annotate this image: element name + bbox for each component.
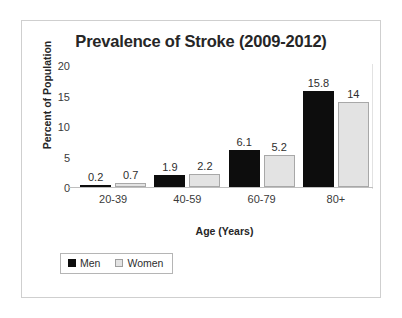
bar-value-label: 2.2 bbox=[197, 160, 212, 172]
y-axis-tick-label: 5 bbox=[64, 152, 70, 164]
legend-item-women[interactable]: Women bbox=[115, 257, 163, 269]
x-axis-tick-label: 20-39 bbox=[76, 193, 150, 205]
bar-slot: 0.2 bbox=[80, 66, 111, 187]
y-axis-tick-label: 0 bbox=[64, 182, 70, 194]
bar-group: 1.92.2 bbox=[150, 66, 224, 187]
bar-group: 15.814 bbox=[299, 66, 373, 187]
bar-value-label: 6.1 bbox=[236, 136, 251, 148]
legend-label: Men bbox=[80, 257, 100, 269]
x-axis-title: Age (Years) bbox=[76, 225, 373, 237]
bar-value-label: 5.2 bbox=[271, 141, 286, 153]
bar-men-20-39[interactable] bbox=[80, 185, 111, 187]
bar-slot: 14 bbox=[338, 66, 369, 187]
chart-legend: MenWomen bbox=[60, 253, 173, 274]
bar-value-label: 0.7 bbox=[123, 169, 138, 181]
bar-slot: 2.2 bbox=[189, 66, 220, 187]
x-axis-baseline bbox=[69, 187, 373, 188]
y-axis-tick-label: 20 bbox=[58, 60, 70, 72]
legend-item-men[interactable]: Men bbox=[68, 257, 100, 269]
bar-group: 6.15.2 bbox=[225, 66, 299, 187]
x-axis-tick-labels: 20-3940-5960-7980+ bbox=[76, 193, 373, 205]
x-axis-tick-label: 40-59 bbox=[150, 193, 224, 205]
bar-men-40-59[interactable] bbox=[154, 175, 185, 187]
chart-title: Prevalence of Stroke (2009-2012) bbox=[22, 32, 380, 51]
bar-slot: 5.2 bbox=[264, 66, 295, 187]
y-axis-tick-label: 15 bbox=[58, 91, 70, 103]
legend-label: Women bbox=[127, 257, 163, 269]
bar-men-60-79[interactable] bbox=[229, 150, 260, 187]
bar-women-60-79[interactable] bbox=[264, 155, 295, 187]
bar-women-80+[interactable] bbox=[338, 102, 369, 187]
bar-group: 0.20.7 bbox=[76, 66, 150, 187]
bar-value-label: 15.8 bbox=[308, 77, 329, 89]
bar-value-label: 0.2 bbox=[88, 171, 103, 183]
bar-value-label: 1.9 bbox=[162, 161, 177, 173]
x-axis-tick-label: 60-79 bbox=[225, 193, 299, 205]
chart-frame: Prevalence of Stroke (2009-2012) Percent… bbox=[21, 20, 381, 298]
bar-slot: 15.8 bbox=[303, 66, 334, 187]
bar-women-20-39[interactable] bbox=[115, 183, 146, 187]
men-swatch-icon bbox=[68, 259, 76, 267]
women-swatch-icon bbox=[115, 259, 123, 267]
bar-slot: 0.7 bbox=[115, 66, 146, 187]
y-axis-tick-label: 10 bbox=[58, 121, 70, 133]
bar-slot: 6.1 bbox=[229, 66, 260, 187]
plot-area: 05101520 0.20.71.92.26.15.215.814 bbox=[76, 66, 373, 188]
bar-women-40-59[interactable] bbox=[189, 174, 220, 187]
y-axis-title: Percent of Population bbox=[41, 30, 53, 160]
bar-slot: 1.9 bbox=[154, 66, 185, 187]
bar-groups: 0.20.71.92.26.15.215.814 bbox=[76, 66, 373, 187]
bar-value-label: 14 bbox=[347, 88, 359, 100]
x-axis-tick-label: 80+ bbox=[299, 193, 373, 205]
bar-men-80+[interactable] bbox=[303, 91, 334, 187]
